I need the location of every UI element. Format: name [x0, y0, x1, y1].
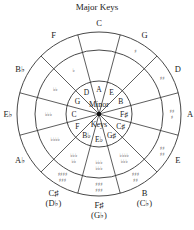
- minor-key-label: A: [96, 85, 102, 94]
- minor-key-label: B: [118, 97, 123, 106]
- major-key-label: A♭: [15, 155, 25, 165]
- key-signature: ♭♭: [71, 158, 76, 164]
- minor-key-label: E: [109, 88, 114, 97]
- key-signature: ♭♭♭: [95, 165, 102, 171]
- key-signature: ♭♭: [53, 86, 58, 92]
- major-key-enharmonic-label: (G♭): [91, 210, 107, 220]
- center-hub: [97, 112, 101, 116]
- major-key-label: E: [175, 155, 180, 165]
- major-key-label: C♯: [49, 188, 60, 198]
- minor-key-label: G: [75, 97, 81, 106]
- key-signature: ♯: [134, 48, 136, 54]
- major-key-label: G: [141, 30, 147, 40]
- key-signature: ♯♯: [160, 151, 165, 157]
- key-signature: ♭♭♭: [45, 111, 52, 117]
- major-key-label: D: [175, 64, 181, 74]
- major-key-label: B♭: [15, 64, 25, 74]
- major-key-label: F♯: [95, 200, 105, 210]
- major-key-enharmonic-label: (D♭): [46, 198, 62, 208]
- minor-key-label: C: [71, 110, 76, 119]
- minor-key-label: D: [84, 88, 90, 97]
- key-signature: ♯♯: [160, 75, 165, 81]
- center-label-keys: Keys: [91, 120, 107, 129]
- minor-key-label: B♭: [82, 131, 91, 140]
- key-signature: ♭♭♭: [121, 158, 128, 164]
- center-label-minor: Minor: [89, 100, 109, 109]
- key-signature: ♯♯♯: [95, 187, 102, 193]
- major-key-label: B: [142, 188, 148, 198]
- major-key-label: C: [96, 18, 102, 28]
- key-signature: ♯♯♯: [59, 177, 66, 183]
- minor-key-label: F: [75, 122, 79, 131]
- minor-key-label: F♯: [120, 110, 128, 119]
- minor-key-label: E♭: [95, 135, 103, 144]
- key-signature: ♭♭♭♭: [51, 136, 60, 142]
- circle-of-fifths: CGDAEB(C♭)F♯(G♭)C♯(D♭)A♭E♭B♭F♯♯♯♯♯♯♯♯♯♯♯…: [0, 0, 194, 230]
- major-key-label: E♭: [3, 109, 12, 119]
- minor-key-label: C♯: [116, 122, 125, 131]
- major-key-enharmonic-label: (C♭): [137, 198, 153, 208]
- key-signature: ♯♯: [133, 177, 138, 183]
- key-signature: ♭: [73, 67, 75, 73]
- major-key-label: A: [187, 109, 194, 119]
- minor-key-label: G♯: [107, 131, 116, 140]
- key-signature: ♯: [171, 114, 173, 120]
- major-key-label: F: [51, 30, 56, 40]
- segment-divider: [99, 114, 157, 172]
